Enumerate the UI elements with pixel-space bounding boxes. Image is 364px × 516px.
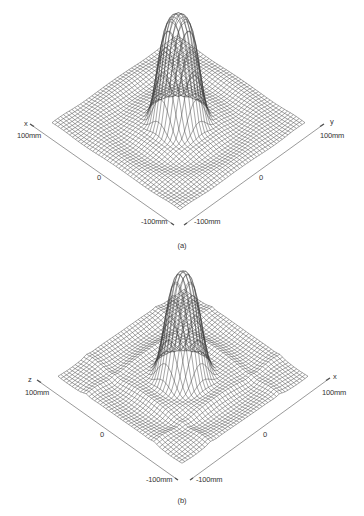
panel-a: x 100mm 0 -100mm y 100mm 0 -100mm (a) <box>0 0 364 258</box>
right-axis-mid-label: 0 <box>259 173 263 182</box>
panel-caption-b: (b) <box>0 496 364 505</box>
surface-plot-a <box>0 0 364 258</box>
right-axis-max-label: 100mm <box>322 388 346 397</box>
left-axis-name: z <box>28 375 32 384</box>
left-axis-name: x <box>24 119 28 128</box>
left-axis-mid-label: 0 <box>97 173 101 182</box>
right-axis-min-label: -100mm <box>194 217 220 226</box>
right-axis-name: y <box>330 117 334 126</box>
panel-b: z 100mm 0 -100mm x 100mm 0 -100mm (b) <box>0 258 364 516</box>
left-axis-min-label: -100mm <box>146 475 172 484</box>
right-axis-min-label: -100mm <box>196 475 222 484</box>
left-axis-mid-label: 0 <box>100 430 104 439</box>
left-axis-max-label: 100mm <box>17 131 41 140</box>
left-axis-max-label: 100mm <box>25 388 49 397</box>
right-axis-name: x <box>333 372 337 381</box>
right-axis-mid-label: 0 <box>263 430 267 439</box>
panel-caption-a: (a) <box>0 241 364 250</box>
left-axis-min-label: -100mm <box>141 217 167 226</box>
right-axis-max-label: 100mm <box>320 131 344 140</box>
surface-plot-b <box>0 258 364 516</box>
